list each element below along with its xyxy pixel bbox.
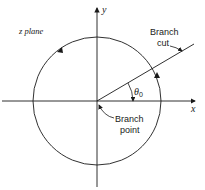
angle-label: θ0 xyxy=(134,86,143,98)
branch-point-label-line2: point xyxy=(120,125,140,135)
z-plane-diagram: z plane y x Branch cut Branch point θ0 xyxy=(0,0,205,190)
z-plane-label: z plane xyxy=(18,26,44,36)
y-axis-label: y xyxy=(101,4,107,15)
branch-cut-label-line1: Branch xyxy=(150,27,179,37)
branch-cut-pointer xyxy=(170,46,182,51)
branch-cut-label-line2: cut xyxy=(157,38,170,48)
branch-point-pointer xyxy=(99,105,114,118)
x-axis-label: x xyxy=(190,103,196,114)
angle-arc xyxy=(128,83,133,101)
branch-point-label-line1: Branch xyxy=(115,114,144,124)
branch-cut-line xyxy=(97,44,194,101)
